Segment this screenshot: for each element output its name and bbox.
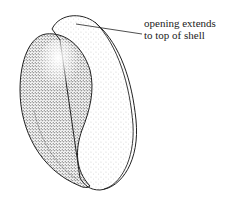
annotation-line-1: opening extends [144, 17, 216, 29]
annotation-line-2: to top of shell [144, 29, 216, 41]
annotation-label: opening extends to top of shell [144, 17, 216, 41]
